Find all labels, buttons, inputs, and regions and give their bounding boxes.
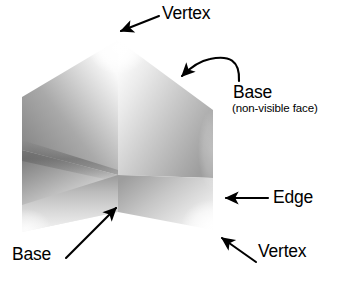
- solid-shape: [0, 22, 241, 252]
- label-base-non-visible-face: Base (non-visible face): [233, 84, 318, 115]
- apex-highlight: [88, 22, 148, 74]
- arrow-vertex-bottom: [222, 238, 256, 262]
- label-vertex-top: Vertex: [162, 5, 210, 23]
- edge-highlight-right: [198, 110, 226, 190]
- label-base-right-title: Base: [233, 82, 272, 102]
- diagram-canvas: [0, 0, 349, 281]
- label-base-bottom: Base: [12, 246, 51, 264]
- figure-diagram: Vertex Base (non-visible face) Edge Vert…: [0, 0, 349, 281]
- arrow-base-right: [182, 58, 239, 81]
- label-base-right-subtitle: (non-visible face): [232, 103, 318, 115]
- corner-highlight-left: [0, 209, 52, 249]
- label-vertex-bottom: Vertex: [258, 243, 306, 261]
- label-edge: Edge: [273, 189, 313, 207]
